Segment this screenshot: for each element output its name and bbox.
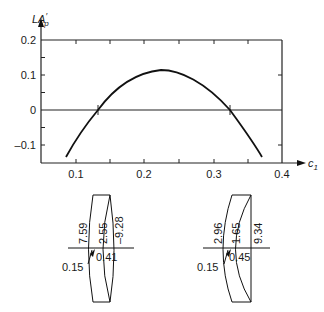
lens-left-r3: –9.28 — [113, 216, 125, 244]
xtick-label: 0.1 — [68, 168, 83, 180]
lens-left-t2: 0.41 — [96, 251, 117, 263]
lens-diagram-right — [203, 195, 270, 302]
data-curve — [66, 70, 262, 157]
lens-right-r3: 9.34 — [252, 223, 264, 244]
lens-right-r2: 1.65 — [230, 223, 242, 244]
figure: 0.2 0.1 0 –0.1 0.1 0.2 0.3 0.4 LA′p c1 7… — [0, 0, 324, 312]
xtick-label: 0.3 — [206, 168, 221, 180]
plot-area — [41, 22, 300, 163]
x-axis-label: c1 — [308, 157, 318, 172]
lens-right-r1: 2.96 — [212, 223, 224, 244]
lens-left-r1: 7.59 — [77, 223, 89, 244]
ytick-label: –0.1 — [15, 139, 36, 151]
xtick-label: 0.4 — [274, 168, 289, 180]
ticks — [41, 40, 282, 163]
lens-left-r2: 2.55 — [97, 223, 109, 244]
lens-left-t1: 0.15 — [62, 261, 83, 273]
xtick-label: 0.2 — [136, 168, 151, 180]
ytick-label: 0 — [30, 104, 36, 116]
lens-right-t1: 0.15 — [197, 261, 218, 273]
lens-right-t2: 0.45 — [229, 251, 250, 263]
ytick-label: 0.1 — [21, 69, 36, 81]
lens-diagram-left — [68, 195, 134, 302]
ytick-label: 0.2 — [21, 34, 36, 46]
x-axis-arrow-icon — [297, 160, 306, 166]
